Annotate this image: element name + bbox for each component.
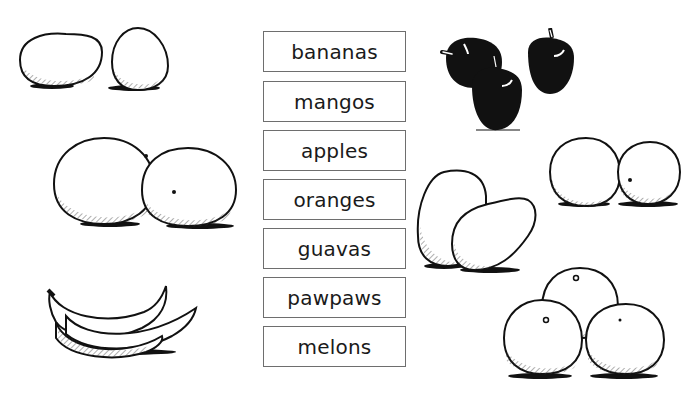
banana-drawing-icon: [46, 282, 206, 362]
oranges-picture-pair[interactable]: [548, 134, 688, 210]
melon-drawing-icon: [50, 132, 250, 232]
mangos-picture[interactable]: [414, 166, 544, 276]
word-box-pawpaws[interactable]: pawpaws: [263, 277, 406, 318]
word-label: bananas: [291, 40, 378, 64]
melons-picture[interactable]: [50, 132, 250, 232]
word-label: pawpaws: [287, 286, 381, 310]
mango-drawing-icon: [414, 166, 544, 276]
word-label: guavas: [298, 237, 371, 261]
word-box-guavas[interactable]: guavas: [263, 228, 406, 269]
word-box-oranges[interactable]: oranges: [263, 179, 406, 220]
bananas-picture[interactable]: [46, 282, 206, 362]
word-label: apples: [301, 139, 368, 163]
guavas-picture[interactable]: [14, 20, 184, 100]
word-label: mangos: [294, 90, 375, 114]
word-box-bananas[interactable]: bananas: [263, 31, 406, 72]
word-label: melons: [298, 335, 372, 359]
orange-pile-drawing-icon: [496, 264, 676, 382]
apples-picture[interactable]: [440, 28, 590, 138]
word-box-mangos[interactable]: mangos: [263, 81, 406, 122]
guava-drawing-icon: [14, 20, 184, 100]
word-label: oranges: [293, 188, 375, 212]
oranges-picture-pile[interactable]: [496, 264, 676, 382]
word-box-apples[interactable]: apples: [263, 130, 406, 171]
word-box-melons[interactable]: melons: [263, 326, 406, 367]
orange-drawing-icon: [548, 134, 688, 210]
apple-drawing-icon: [440, 28, 590, 138]
